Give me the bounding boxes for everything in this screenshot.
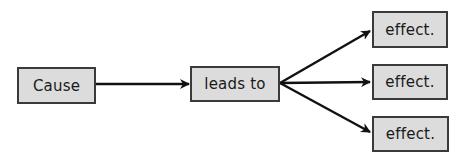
effect-box-1: effect. xyxy=(372,11,448,48)
effect-label-1: effect. xyxy=(385,21,434,39)
arrow-leads-to-effect2 xyxy=(280,82,370,83)
cause-box: Cause xyxy=(17,67,96,104)
effect-label-3: effect. xyxy=(386,125,435,143)
arrow-leads-to-effect3 xyxy=(280,83,370,132)
leads-to-box: leads to xyxy=(190,66,280,102)
effect-box-2: effect. xyxy=(372,64,448,100)
cause-label: Cause xyxy=(33,77,80,95)
effect-box-3: effect. xyxy=(372,116,449,152)
arrow-leads-to-effect1 xyxy=(280,31,370,83)
leads-to-label: leads to xyxy=(204,75,265,93)
cause-effect-diagram: Cause leads to effect. effect. effect. xyxy=(0,0,461,165)
effect-label-2: effect. xyxy=(385,73,434,91)
